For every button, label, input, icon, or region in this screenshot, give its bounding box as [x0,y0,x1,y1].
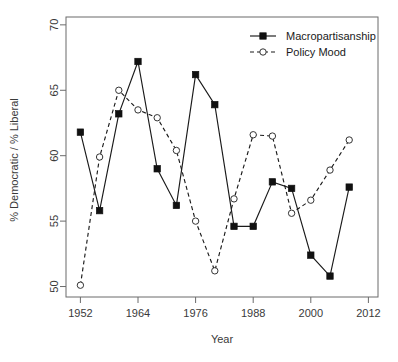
plot-border [66,17,378,297]
x-tick-label: 1988 [241,307,265,319]
x-tick-label: 1976 [183,307,207,319]
data-point-marker [308,252,314,258]
y-axis-title: % Democratic / % Liberal [8,98,20,222]
data-point-marker [192,71,198,77]
data-point-marker [250,132,256,138]
data-point-marker [96,207,102,213]
data-point-marker [269,133,275,139]
legend-label: Macropartisanship [286,30,376,42]
y-tick-label: 50 [48,280,60,292]
data-point-marker [346,184,352,190]
data-point-marker [212,268,218,274]
y-axis-ticks: 5055606570 [48,19,66,293]
x-tick-label: 1952 [68,307,92,319]
data-point-marker [154,166,160,172]
y-tick-label: 60 [48,150,60,162]
data-point-marker [288,210,294,216]
data-point-marker [250,223,256,229]
x-axis-title: Year [211,333,234,345]
legend-label: Policy Mood [286,46,346,58]
data-point-marker [327,273,333,279]
legend-marker-square [260,33,266,39]
x-axis-ticks: 195219641976198820002012 [68,297,380,319]
x-tick-label: 2000 [299,307,323,319]
chart-svg: 195219641976198820002012 5055606570 Macr… [0,0,398,362]
data-point-marker [308,197,314,203]
x-tick-label: 2012 [356,307,380,319]
data-point-marker [135,107,141,113]
data-point-marker [231,196,237,202]
series-line [80,61,349,276]
data-point-marker [173,147,179,153]
legend-entry: Policy Mood [250,46,346,58]
data-point-marker [269,179,275,185]
y-tick-label: 70 [48,19,60,31]
data-point-marker [327,167,333,173]
y-tick-label: 65 [48,84,60,96]
legend-entry: Macropartisanship [250,30,376,42]
data-point-marker [96,154,102,160]
chart-legend: MacropartisanshipPolicy Mood [250,30,376,58]
data-point-marker [288,185,294,191]
y-tick-label: 55 [48,215,60,227]
data-point-marker [77,129,83,135]
data-point-marker [77,282,83,288]
legend-marker-circle [260,49,266,55]
data-point-marker [231,223,237,229]
data-series-group [77,58,352,288]
data-point-marker [135,58,141,64]
data-point-marker [116,87,122,93]
data-point-marker [212,101,218,107]
data-point-marker [346,137,352,143]
x-tick-label: 1964 [126,307,150,319]
plot-frame [66,17,378,297]
data-point-marker [192,218,198,224]
data-point-marker [116,111,122,117]
chart-container: 195219641976198820002012 5055606570 Macr… [0,0,398,362]
data-point-marker [173,202,179,208]
data-point-marker [154,115,160,121]
